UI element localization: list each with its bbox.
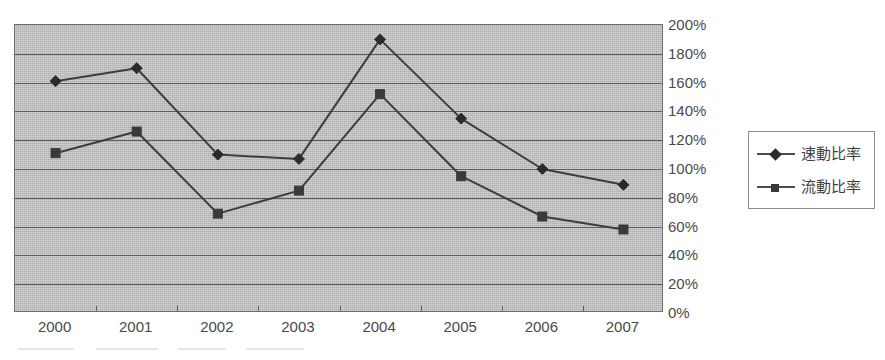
series-line (56, 39, 624, 184)
x-axis-labels: 20002001200220032004200520062007 (14, 318, 663, 344)
x-tick-label: 2000 (38, 318, 71, 336)
x-tick-label: 2004 (362, 318, 395, 336)
x-tick-label: 2005 (444, 318, 477, 336)
y-tick-label: 20% (668, 276, 698, 291)
data-point-diamond (50, 76, 61, 87)
series-1 (50, 34, 629, 190)
y-tick-label: 80% (668, 190, 698, 205)
data-point-diamond (537, 164, 548, 175)
data-point-square (213, 209, 222, 218)
y-tick-label: 140% (668, 103, 706, 118)
y-tick-label: 100% (668, 161, 706, 176)
series-2 (51, 90, 628, 234)
scan-artifact (96, 348, 158, 350)
data-point-square (538, 212, 547, 221)
data-point-square (132, 127, 141, 136)
series-line (56, 94, 624, 229)
data-point-square (51, 149, 60, 158)
y-axis-labels: 200%180%160%140%120%100%80%60%40%20%0% (668, 0, 738, 330)
y-tick-label: 160% (668, 75, 706, 90)
legend-item-label: 速動比率 (801, 146, 861, 162)
x-tick-label: 2002 (200, 318, 233, 336)
data-point-diamond (293, 153, 304, 164)
data-point-square (376, 90, 385, 99)
y-tick-label: 0% (668, 305, 690, 320)
y-tick-label: 180% (668, 46, 706, 61)
y-tick-label: 40% (668, 247, 698, 262)
x-tick-label: 2006 (525, 318, 558, 336)
scan-artifact (246, 348, 304, 350)
y-tick-label: 120% (668, 132, 706, 147)
line-chart: 200%180%160%140%120%100%80%60%40%20%0% 2… (0, 0, 885, 360)
x-tick-label: 2003 (281, 318, 314, 336)
data-point-square (619, 225, 628, 234)
legend-item-1[interactable]: 流動比率 (757, 174, 861, 200)
x-tick-label: 2007 (606, 318, 639, 336)
legend: 速動比率 流動比率 (748, 131, 875, 209)
legend-item-label: 流動比率 (801, 179, 861, 195)
diamond-marker-icon (757, 147, 795, 161)
scan-artifact (18, 348, 74, 350)
x-tick-label: 2001 (119, 318, 152, 336)
series-layer (15, 25, 663, 312)
y-tick-label: 200% (668, 17, 706, 32)
data-point-square (294, 186, 303, 195)
data-point-diamond (618, 179, 629, 190)
legend-item-0[interactable]: 速動比率 (757, 141, 861, 167)
plot-area (14, 24, 663, 312)
square-marker-icon (757, 180, 795, 194)
data-point-square (457, 172, 466, 181)
scan-artifact (178, 348, 226, 350)
y-tick-label: 60% (668, 219, 698, 234)
